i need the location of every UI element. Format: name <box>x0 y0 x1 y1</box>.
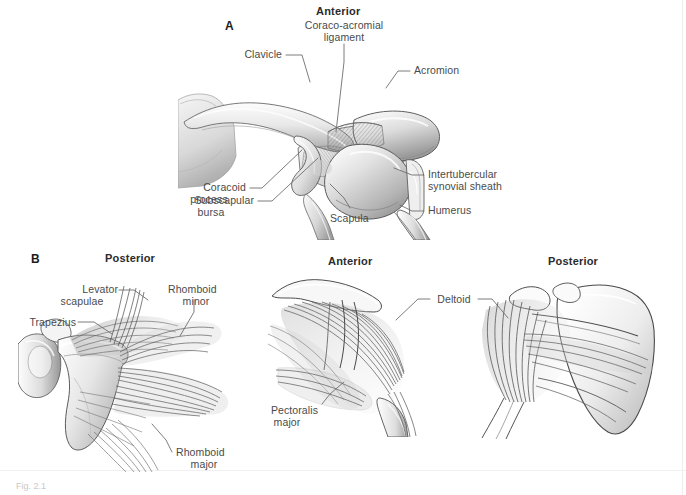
label-rhomboid-minor-line1: Rhomboid <box>168 283 217 296</box>
panel-b-posterior-left-illustration <box>18 282 248 472</box>
figure-caption: Fig. 2.1 <box>16 481 46 491</box>
label-rhomboid-minor-line2: minor <box>168 295 224 308</box>
panel-b-posterior-right-illustration <box>480 274 670 439</box>
label-coracoid-process-line1: Coracoid <box>172 181 246 194</box>
panel-b-anterior-middle-heading: Anterior <box>328 255 372 267</box>
page-edge-line <box>682 0 683 495</box>
panel-b-letter: B <box>31 252 40 266</box>
label-deltoid: Deltoid <box>434 293 474 306</box>
label-rhomboid-major-line2: major <box>176 458 232 471</box>
label-humerus: Humerus <box>428 204 471 217</box>
label-pectoralis-major-line2: major <box>256 416 318 429</box>
anatomy-figure: A Anterior Coraco-acromial ligament Clav… <box>0 0 686 495</box>
label-rhomboid-major-line1: Rhomboid <box>176 446 225 459</box>
label-scapula: Scapula <box>330 212 369 225</box>
label-clavicle: Clavicle <box>206 48 282 61</box>
label-levator-scapulae-line1: Levator <box>46 283 118 296</box>
label-subscapular-bursa-line1: Subscapular <box>168 194 254 207</box>
label-intertubercular-synovial-sheath-line1: Intertubercular <box>428 168 497 181</box>
panel-a-anterior-heading: Anterior <box>316 5 360 17</box>
label-intertubercular-synovial-sheath-line2: synovial sheath <box>428 180 502 193</box>
label-levator-scapulae-line2: scapulae <box>46 295 118 308</box>
label-pectoralis-major-line1: Pectoralis <box>256 404 318 417</box>
label-trapezius: Trapezius <box>14 316 76 329</box>
label-acromion: Acromion <box>414 64 459 77</box>
panel-b-posterior-right-heading: Posterior <box>548 255 598 267</box>
panel-b-posterior-left-heading: Posterior <box>105 252 155 264</box>
label-coraco-acromial-ligament-line1: Coraco-acromial <box>289 19 399 32</box>
panel-a-letter: A <box>225 19 234 33</box>
label-subscapular-bursa-line2: bursa <box>168 206 254 219</box>
label-coraco-acromial-ligament-line2: ligament <box>289 31 399 44</box>
